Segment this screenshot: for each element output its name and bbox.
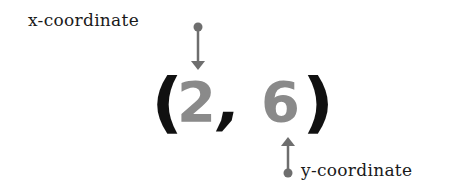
y-coordinate-label: y-coordinate bbox=[301, 160, 412, 180]
x-arrow-icon bbox=[191, 23, 205, 71]
close-paren: ) bbox=[302, 70, 334, 136]
x-value: 2 bbox=[177, 74, 216, 130]
y-value: 6 bbox=[261, 74, 300, 130]
y-arrow-icon bbox=[281, 137, 295, 178]
